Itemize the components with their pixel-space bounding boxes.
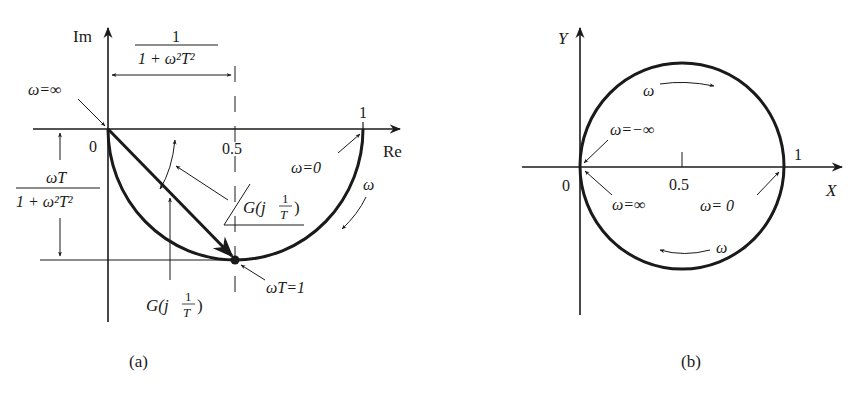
- tick-one-label: 1: [359, 104, 367, 121]
- im-axis-label: Im: [73, 27, 92, 46]
- omega-inf-label: ω=∞: [28, 81, 62, 98]
- omega-zero-pointer: [757, 172, 779, 195]
- angle-pointer: [176, 166, 228, 200]
- omega-neg-inf-pointer: [584, 140, 608, 163]
- tick-one-label: 1: [794, 146, 802, 163]
- angle-g-frac-num: 1: [282, 191, 289, 206]
- magnitude-g-frac-den: T: [183, 305, 191, 320]
- tick-half-label: 0.5: [222, 140, 242, 157]
- angle-g-frac-den: T: [280, 207, 288, 222]
- magnitude-g-frac-num: 1: [185, 289, 192, 304]
- y-axis-label: Y: [558, 29, 569, 48]
- omega-bottom-label: ω: [716, 239, 727, 256]
- left-dim-denominator: 1 + ω²T²: [16, 193, 74, 210]
- omega-inf-pointer: [585, 171, 612, 195]
- omega-zero-label: ω=0: [291, 159, 321, 176]
- figure-b: Y X 0 0.5 1 ω ω ω=−∞ ω=∞ ω= 0 (b): [522, 28, 842, 371]
- tick-origin-label: 0: [89, 138, 97, 155]
- caption-a: (a): [129, 352, 148, 371]
- omega-bottom-arrow: [660, 250, 710, 254]
- omega-t-one-pointer: [241, 265, 265, 280]
- omega-top-label: ω: [643, 82, 654, 99]
- omega-direction-arrow: [342, 197, 366, 229]
- omega-inf-label: ω=∞: [612, 196, 646, 213]
- omega-t-one-point: [231, 256, 240, 265]
- omega-direction-label: ω: [363, 176, 374, 193]
- caption-b: (b): [681, 352, 701, 371]
- omega-inf-pointer: [78, 99, 105, 126]
- angle-g-close: ): [294, 198, 300, 217]
- angle-arc: [160, 140, 175, 189]
- omega-zero-label: ω= 0: [700, 197, 734, 214]
- tick-half-label: 0.5: [669, 176, 689, 193]
- omega-t-one-label: ωT=1: [266, 279, 305, 296]
- top-dim-denominator: 1 + ω²T²: [138, 50, 196, 67]
- omega-top-arrow: [660, 82, 714, 86]
- angle-g-label: G(j: [243, 198, 266, 217]
- top-dim-numerator: 1: [172, 28, 180, 45]
- omega-zero-pointer: [338, 134, 360, 153]
- re-axis-label: Re: [383, 142, 402, 161]
- magnitude-g-close: ): [197, 296, 203, 315]
- magnitude-g-label: G(j: [146, 296, 169, 315]
- nyquist-diagrams: Im Re 1 0 0.5 1 1 + ω²T² ωT 1 + ω²T² ω=∞…: [0, 0, 858, 393]
- left-dim-numerator: ωT: [46, 169, 67, 186]
- x-axis-label: X: [825, 181, 837, 200]
- omega-neg-inf-label: ω=−∞: [610, 121, 654, 138]
- tick-origin-label: 0: [562, 177, 570, 194]
- figure-a: Im Re 1 0 0.5 1 1 + ω²T² ωT 1 + ω²T² ω=∞…: [16, 27, 402, 371]
